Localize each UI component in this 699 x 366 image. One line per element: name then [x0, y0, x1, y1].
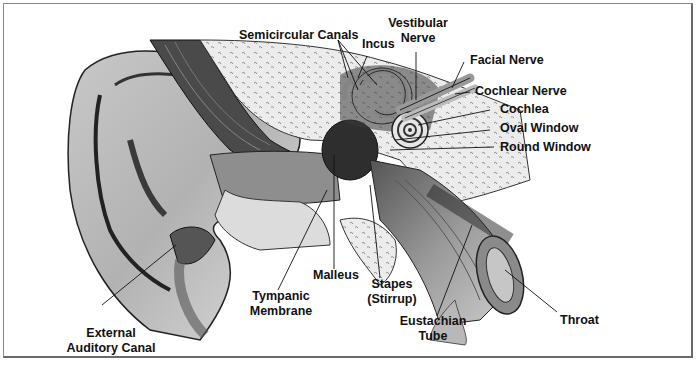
label-malleus: Malleus [313, 268, 359, 283]
label-eustachian-line-1: Eustachian [394, 314, 472, 329]
label-eustachian-line-2: Tube [394, 329, 472, 344]
label-stapes-line-1: Stapes [366, 277, 418, 292]
label-external-line-1: External [64, 326, 158, 341]
middle-ear [322, 120, 378, 180]
label-semicircular-canals: Semicircular Canals [239, 28, 359, 43]
label-external-line-2: Auditory Canal [64, 341, 158, 356]
label-round-window: Round Window [500, 140, 591, 155]
label-external-auditory-canal: External Auditory Canal [64, 326, 158, 356]
label-vestibular-line-1: Vestibular [386, 16, 450, 31]
label-facial-nerve: Facial Nerve [470, 53, 544, 68]
ear-anatomy-illustration [0, 0, 699, 366]
label-stapes: Stapes (Stirrup) [366, 277, 418, 307]
label-tympanic-line-2: Membrane [249, 304, 313, 319]
label-cochlear-nerve: Cochlear Nerve [475, 84, 567, 99]
label-cochlea: Cochlea [500, 102, 549, 117]
label-tympanic-line-1: Tympanic [249, 289, 313, 304]
label-eustachian-tube: Eustachian Tube [394, 314, 472, 344]
label-throat: Throat [560, 313, 599, 328]
label-stapes-line-2: (Stirrup) [366, 292, 418, 307]
label-vestibular-nerve: Vestibular Nerve [386, 16, 450, 46]
label-oval-window: Oval Window [500, 121, 578, 136]
label-vestibular-line-2: Nerve [386, 31, 450, 46]
label-tympanic-membrane: Tympanic Membrane [249, 289, 313, 319]
